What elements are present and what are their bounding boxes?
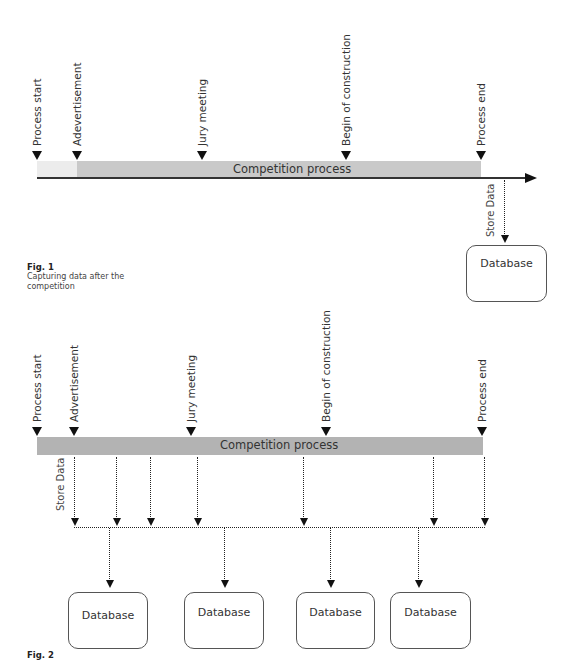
marker-label: Adevertisement <box>71 62 83 146</box>
pre-competition-bar <box>37 161 77 178</box>
competition-process-label: Competition process <box>220 438 338 452</box>
database-connector <box>418 528 419 581</box>
database-connector <box>330 528 331 581</box>
figure-2-timeline: Process start Advertisement Jury meeting… <box>0 300 569 655</box>
triangle-marker-icon <box>32 151 42 160</box>
marker-label: Process end <box>476 359 488 422</box>
caption-title: Fig. 1 <box>27 262 137 272</box>
arrow-down-icon <box>415 580 423 588</box>
database-connector <box>109 528 110 581</box>
triangle-marker-icon <box>186 427 196 436</box>
marker-label: Process start <box>31 78 43 146</box>
arrow-down-icon <box>221 580 229 588</box>
database-connector <box>224 528 225 581</box>
store-connector <box>303 457 304 519</box>
store-connector <box>484 457 485 519</box>
arrow-down-icon <box>106 580 114 588</box>
store-connector <box>116 457 117 519</box>
axis-arrow-icon <box>525 173 537 183</box>
marker-label: Begin of construction <box>340 34 352 146</box>
marker-label: Advertisement <box>68 345 80 422</box>
marker-label: Process start <box>31 354 43 422</box>
marker-label: Jury meeting <box>196 79 208 146</box>
database-label: Database <box>391 606 470 619</box>
arrow-down-icon <box>147 518 155 526</box>
store-connector <box>197 457 198 519</box>
store-data-label: Store Data <box>485 184 496 238</box>
arrow-down-icon <box>501 235 509 243</box>
triangle-marker-icon <box>72 151 82 160</box>
triangle-marker-icon <box>69 427 79 436</box>
time-axis <box>37 177 527 179</box>
arrow-down-icon <box>430 518 438 526</box>
triangle-marker-icon <box>197 151 207 160</box>
triangle-marker-icon <box>341 151 351 160</box>
database-box: Database <box>296 592 375 649</box>
arrow-down-icon <box>481 518 489 526</box>
competition-process-bar: Competition process <box>77 161 481 178</box>
marker-label: Begin of construction <box>320 310 332 422</box>
triangle-marker-icon <box>477 427 487 436</box>
arrow-down-icon <box>71 518 79 526</box>
store-data-connector <box>504 180 505 236</box>
arrow-down-icon <box>113 518 121 526</box>
caption-text: Capturing data after the competition <box>27 272 137 292</box>
database-label: Database <box>69 609 147 622</box>
database-box: Database <box>68 592 148 649</box>
arrow-down-icon <box>327 580 335 588</box>
competition-process-label: Competition process <box>233 162 351 176</box>
database-box: Database <box>466 245 547 302</box>
database-box: Database <box>390 592 471 649</box>
caption-title: Fig. 2 <box>27 650 54 660</box>
figure-2-caption: Fig. 2 <box>27 650 54 660</box>
data-collector-line <box>74 527 485 528</box>
database-label: Database <box>297 606 374 619</box>
triangle-marker-icon <box>32 427 42 436</box>
arrow-down-icon <box>194 518 202 526</box>
arrow-down-icon <box>300 518 308 526</box>
triangle-marker-icon <box>476 151 486 160</box>
figure-1-timeline: Process start Adevertisement Jury meetin… <box>0 0 569 310</box>
database-label: Database <box>185 606 263 619</box>
triangle-marker-icon <box>321 427 331 436</box>
competition-process-bar: Competition process <box>37 437 483 455</box>
store-data-label: Store Data <box>55 458 66 512</box>
store-connector <box>150 457 151 519</box>
database-label: Database <box>467 257 546 270</box>
store-connector <box>433 457 434 519</box>
figure-1-caption: Fig. 1 Capturing data after the competit… <box>27 262 137 292</box>
marker-label: Process end <box>475 83 487 146</box>
store-connector <box>74 457 75 519</box>
marker-label: Jury meeting <box>185 355 197 422</box>
database-box: Database <box>184 592 264 649</box>
